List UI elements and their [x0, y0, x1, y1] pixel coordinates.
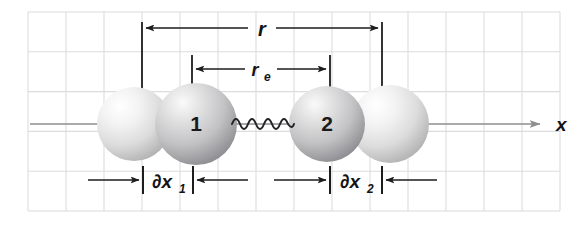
- dimension-r: r: [146, 18, 378, 40]
- dimension-dx2-label: ∂x: [340, 171, 361, 192]
- dimension-dx2: ∂x 2: [274, 166, 437, 196]
- dimension-dx1: ∂x 1: [88, 166, 248, 196]
- dimension-re: r e: [196, 60, 326, 84]
- dimension-re-label: r: [251, 60, 259, 80]
- dimension-dx2-subscript: 2: [366, 182, 374, 196]
- x-axis-label: x: [555, 114, 568, 135]
- atom-2-label: 2: [321, 112, 333, 135]
- dimension-re-subscript: e: [264, 70, 271, 84]
- diagram-canvas: x 1 2 r: [0, 0, 588, 228]
- diatomic-oscillator-diagram: x 1 2 r: [0, 0, 588, 228]
- dimension-dx1-label: ∂x: [152, 171, 173, 192]
- dimension-r-label: r: [258, 18, 267, 40]
- atom-1-label: 1: [190, 112, 202, 135]
- dimension-dx1-subscript: 1: [179, 182, 186, 196]
